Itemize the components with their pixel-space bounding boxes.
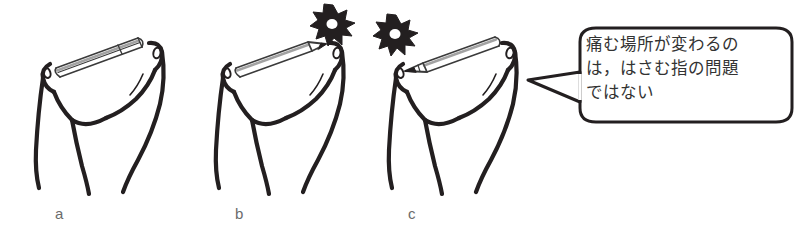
- speech-bubble: 痛む場所が変わるの は，はさむ指の問題 ではない: [520, 10, 801, 140]
- hand-icon: [190, 0, 380, 200]
- panel-b: b: [190, 0, 380, 200]
- speech-bubble-text: 痛む場所が変わるの は，はさむ指の問題 ではない: [586, 32, 786, 104]
- speech-bubble-tail: [528, 72, 580, 102]
- panel-c-label: c: [408, 205, 416, 222]
- pain-burst-icon: [310, 4, 355, 46]
- pain-burst-icon: [373, 14, 418, 56]
- hand-icon: [10, 0, 200, 200]
- panel-a-label: a: [55, 205, 63, 222]
- pencil-icon: [235, 42, 326, 77]
- panel-b-label: b: [235, 205, 243, 222]
- panel-a: a: [10, 0, 200, 200]
- illustration-figure: a: [0, 0, 801, 243]
